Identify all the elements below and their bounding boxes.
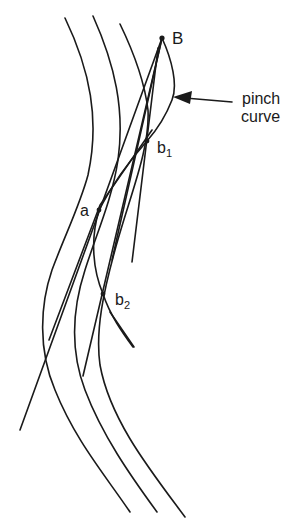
point-b1 bbox=[145, 139, 150, 144]
pinch-curve-diagram: B a b1 b2 pinch curve bbox=[0, 0, 306, 532]
tail-line-b2 bbox=[110, 312, 134, 347]
label-pinch: pinch bbox=[242, 90, 280, 107]
label-a: a bbox=[80, 202, 89, 219]
label-b2-sub: 2 bbox=[124, 299, 130, 311]
label-b1-sub: 1 bbox=[166, 147, 172, 159]
label-b2: b2 bbox=[115, 291, 130, 311]
point-b2 bbox=[101, 292, 106, 297]
label-b1-main: b bbox=[157, 139, 166, 156]
point-B bbox=[159, 35, 164, 40]
label-b2-main: b bbox=[115, 291, 124, 308]
label-curve: curve bbox=[241, 108, 280, 125]
label-b1: b1 bbox=[157, 139, 172, 159]
arrow-shaft bbox=[185, 98, 232, 102]
arrow-head-icon bbox=[173, 91, 192, 104]
point-a bbox=[97, 208, 102, 213]
label-B: B bbox=[172, 29, 183, 48]
